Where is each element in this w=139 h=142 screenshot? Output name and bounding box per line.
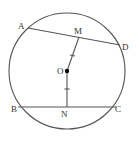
label-c: C xyxy=(115,104,121,114)
label-b: B xyxy=(11,104,17,114)
segment-om xyxy=(67,37,79,71)
label-n: N xyxy=(61,109,68,119)
label-a: A xyxy=(18,21,25,31)
label-d: D xyxy=(122,42,129,52)
center-dot xyxy=(65,69,69,73)
tick-mark-om xyxy=(70,55,75,56)
label-o: O xyxy=(57,66,64,76)
label-m: M xyxy=(74,26,82,36)
geometry-diagram: A M D O B N C xyxy=(0,0,139,142)
